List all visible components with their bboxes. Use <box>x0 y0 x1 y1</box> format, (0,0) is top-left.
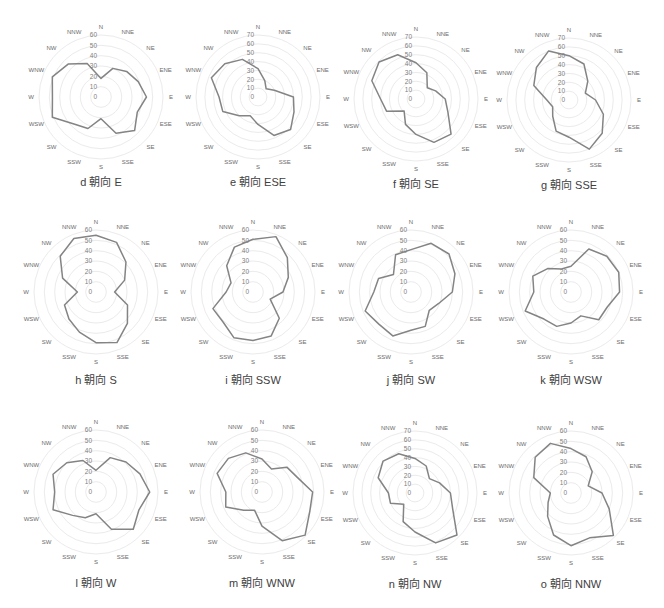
direction-label: E <box>639 490 643 496</box>
axis-tick-label: 20 <box>560 469 568 476</box>
axis-tick-label: 0 <box>250 93 254 100</box>
direction-label: S <box>94 359 98 365</box>
grid-ring <box>240 79 275 114</box>
direction-label: NNW <box>62 424 77 430</box>
direction-label: SE <box>614 147 622 153</box>
direction-label: SW <box>47 144 57 150</box>
axis-tick-label: 0 <box>93 93 97 100</box>
direction-label: SSE <box>283 554 295 560</box>
direction-label: WNW <box>180 262 196 268</box>
axis-tick-label: 50 <box>85 237 93 244</box>
axis-tick-label: 0 <box>408 95 412 102</box>
axis-tick-label: 30 <box>405 69 413 76</box>
direction-label: WSW <box>29 121 45 127</box>
direction-label: ESE <box>312 316 324 322</box>
direction-label: S <box>409 359 413 365</box>
direction-label: NE <box>460 441 468 447</box>
grid-ring <box>525 56 614 145</box>
direction-label: WSW <box>339 316 355 322</box>
direction-label: E <box>326 94 330 100</box>
axis-tick-label: 70 <box>404 427 412 434</box>
direction-label: WSW <box>24 516 40 522</box>
direction-label: NNW <box>62 224 77 230</box>
grid-ring <box>359 240 462 343</box>
direction-label: W <box>343 96 349 102</box>
direction-label: NNE <box>282 424 295 430</box>
direction-label: SSE <box>279 159 291 165</box>
direction-label: WSW <box>344 123 360 129</box>
direction-label: WSW <box>186 121 202 127</box>
axis-tick-label: 10 <box>404 480 412 487</box>
direction-label: SSW <box>537 354 551 360</box>
direction-label: NNE <box>116 224 129 230</box>
axis-tick-label: 60 <box>90 31 98 38</box>
direction-label: SW <box>362 146 372 152</box>
direction-label: ESE <box>317 121 329 127</box>
radar-plot: 0102030405060NNNENEENEEESESESSESSSWSWWSW… <box>16 12 186 182</box>
direction-label: NE <box>141 440 149 446</box>
chart-caption: j 朝向 SW <box>326 373 496 387</box>
direction-label: NE <box>307 440 315 446</box>
direction-label: NNW <box>219 224 234 230</box>
axis-tick-label: 40 <box>558 61 566 68</box>
direction-label: SE <box>307 539 315 545</box>
axis-tick-label: 20 <box>85 268 93 275</box>
direction-label: NW <box>204 45 214 51</box>
axis-tick-label: 40 <box>242 247 250 254</box>
direction-label: N <box>409 219 413 225</box>
direction-label: ESE <box>155 316 167 322</box>
grid-ring <box>196 35 320 159</box>
axis-tick-label: 10 <box>560 278 568 285</box>
direction-label: W <box>180 289 186 295</box>
direction-label: N <box>569 420 573 426</box>
axis-tick-label: 10 <box>560 479 568 486</box>
direction-label: NNW <box>535 32 550 38</box>
direction-label: N <box>567 27 571 33</box>
direction-label: NNW <box>537 224 552 230</box>
direction-label: NNW <box>537 425 552 431</box>
axis-tick-label: 50 <box>560 237 568 244</box>
axis-tick-label: 20 <box>560 268 568 275</box>
chart-caption: d 朝向 E <box>16 175 186 189</box>
grid-ring <box>550 472 591 513</box>
direction-label: NE <box>303 45 311 51</box>
direction-label: W <box>185 94 191 100</box>
direction-label: W <box>23 489 29 495</box>
direction-label: S <box>567 167 571 173</box>
direction-label: WSW <box>497 124 513 130</box>
direction-label: NW <box>357 240 367 246</box>
direction-label: SE <box>460 540 468 546</box>
radar-plot: 010203040506070NNNENEENEEESESESSESSSWSWW… <box>330 408 500 578</box>
direction-label: W <box>342 490 348 496</box>
direction-label: E <box>637 97 641 103</box>
direction-label: WSW <box>343 517 359 523</box>
grid-ring <box>39 35 163 159</box>
axis-tick-label: 10 <box>405 86 413 93</box>
axis-tick-label: 20 <box>242 268 250 275</box>
axis-tick-label: 40 <box>247 58 255 65</box>
direction-label: ESE <box>160 121 172 127</box>
grid-ring <box>223 62 294 133</box>
radar-plot: 010203040506070NNNENEENEEESESESSESSSWSWW… <box>331 14 501 184</box>
radar-chart-f: 010203040506070NNNENEENEEESESESSESSSWSWW… <box>331 14 501 204</box>
grid-ring <box>509 230 633 354</box>
chart-caption: h 朝向 S <box>11 373 181 387</box>
radar-chart-n: 010203040506070NNNENEENEEESESESSESSSWSWW… <box>330 408 500 598</box>
axis-tick-label: 70 <box>558 34 566 41</box>
direction-label: WNW <box>185 67 201 73</box>
direction-label: SSE <box>590 162 602 168</box>
radar-chart-e: 010203040506070NNNENEENEEESESESSESSSWSWW… <box>173 12 343 202</box>
direction-label: NW <box>361 441 371 447</box>
axis-tick-label: 50 <box>247 49 255 56</box>
direction-label: WSW <box>181 316 197 322</box>
direction-label: NNE <box>589 32 602 38</box>
direction-label: S <box>413 560 417 566</box>
axis-tick-label: 10 <box>251 478 259 485</box>
direction-label: N <box>414 26 418 32</box>
axis-tick-label: 50 <box>400 237 408 244</box>
grid-ring <box>388 466 441 519</box>
direction-label: NE <box>614 48 622 54</box>
chart-caption: e 朝向 ESE <box>173 175 343 189</box>
direction-label: NNE <box>435 425 448 431</box>
direction-label: W <box>498 289 504 295</box>
